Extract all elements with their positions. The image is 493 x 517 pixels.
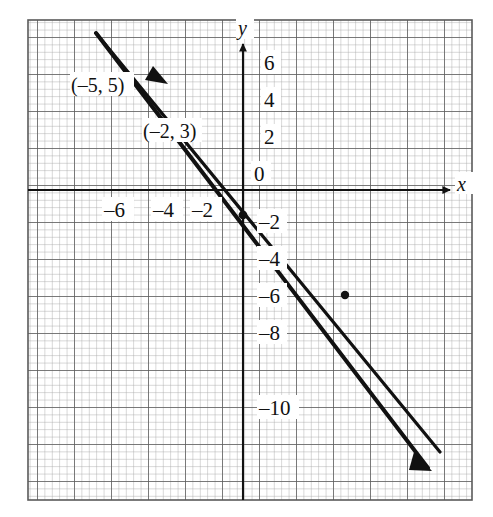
- y-tick-label-neg6: –6: [258, 284, 280, 308]
- y-tick-neg10: –10: [257, 395, 299, 420]
- y-tick-label-6: 6: [264, 51, 275, 75]
- y-tick-label-2: 2: [264, 125, 275, 149]
- y-tick-6: 6: [261, 50, 281, 75]
- y-axis-label: y: [236, 17, 247, 40]
- y-tick-label-neg8: –8: [258, 321, 280, 345]
- y-tick-2: 2: [261, 124, 281, 149]
- y-tick-neg6: –6: [257, 283, 287, 308]
- y-tick-label-neg10: –10: [258, 396, 291, 420]
- point-label-minus5-5: (–5, 5): [71, 74, 124, 97]
- coordinate-graph-figure: 6 4 2 0 –2 –4 –6 –8: [0, 0, 493, 517]
- x-tick-label-neg6: –6: [103, 198, 125, 222]
- point-y-intercept: [239, 211, 248, 220]
- y-tick-label-neg4: –4: [258, 247, 281, 271]
- y-tick-label-neg2: –2: [258, 210, 280, 234]
- x-tick-neg4: –4: [151, 197, 183, 222]
- x-tick-neg6: –6: [102, 197, 134, 222]
- x-tick-label-neg2: –2: [191, 198, 213, 222]
- origin-label: 0: [254, 162, 265, 186]
- y-tick-neg4: –4: [257, 246, 287, 271]
- y-tick-label-4: 4: [264, 88, 275, 112]
- x-tick-neg2: –2: [190, 197, 222, 222]
- point-label-minus2-3: (–2, 3): [143, 120, 196, 143]
- x-tick-label-neg4: –4: [152, 198, 175, 222]
- x-axis-label: x: [456, 173, 466, 195]
- y-tick-neg8: –8: [257, 320, 287, 345]
- x-axis-tick-labels: –6 –4 –2: [102, 197, 222, 222]
- y-tick-neg2: –2: [257, 209, 287, 234]
- point-on-line: [341, 291, 349, 299]
- y-tick-0: 0: [251, 161, 271, 186]
- y-tick-4: 4: [261, 87, 281, 112]
